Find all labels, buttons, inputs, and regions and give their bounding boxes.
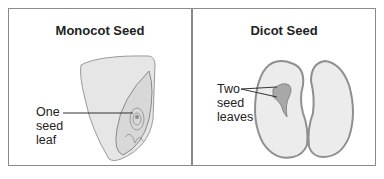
dicot-label: Two seed leaves — [217, 82, 253, 124]
dicot-panel: Dicot Seed Two seed leaves — [192, 8, 376, 166]
monocot-label: One seed leaf — [36, 105, 63, 147]
monocot-panel: Monocot Seed One seed leaf — [8, 8, 192, 166]
